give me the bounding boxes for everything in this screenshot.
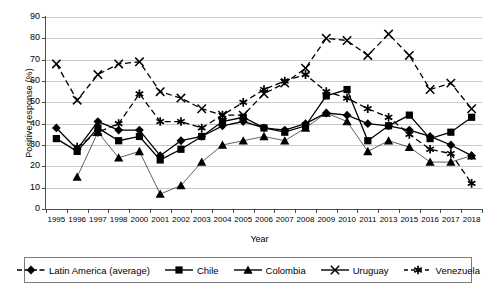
triangle-marker-icon [197, 157, 206, 165]
square-marker-icon [364, 137, 371, 144]
x-tick-label: 2018 [457, 215, 487, 224]
x-tick-mark [357, 209, 358, 213]
x-tick-mark [316, 209, 317, 213]
triangle-marker-icon [384, 136, 393, 144]
y-tick-label: 70 [14, 55, 40, 64]
square-marker-icon [468, 114, 475, 121]
legend-label: Colombia [266, 265, 306, 276]
y-tick-label: 40 [14, 119, 40, 128]
diamond-marker-icon [177, 136, 186, 145]
cross-marker-icon [364, 51, 372, 59]
chart-legend: Latin America (average)ChileColombiaUrug… [24, 257, 472, 283]
x-axis-title-text: Year [228, 234, 268, 244]
y-tick-label: 90 [14, 12, 40, 21]
asterisk-marker-icon [364, 104, 371, 113]
diamond-marker-icon [363, 119, 372, 128]
x-tick-mark [337, 209, 338, 213]
cross-marker-icon [322, 34, 330, 42]
square-marker-icon [198, 133, 205, 140]
x-tick-mark [67, 209, 68, 213]
x-tick-mark [212, 209, 213, 213]
x-tick-mark [378, 209, 379, 213]
square-marker-icon [53, 135, 60, 142]
cross-marker-icon [447, 79, 455, 87]
data-series-layer [46, 17, 482, 209]
legend-label: Venezuela [436, 265, 480, 276]
x-tick-mark [461, 209, 462, 213]
triangle-marker-icon [363, 147, 372, 155]
square-marker-icon [426, 135, 433, 142]
cross-marker-icon [73, 96, 81, 104]
y-tick-label: 30 [14, 140, 40, 149]
square-marker-icon [260, 124, 267, 131]
triangle-marker-icon [342, 117, 351, 125]
series-uruguay [52, 30, 476, 119]
series-line [56, 34, 471, 115]
cross-marker-icon [384, 30, 392, 38]
x-axis-line [45, 209, 483, 210]
square-marker-icon [281, 129, 288, 136]
legend-label: Uruguay [353, 265, 389, 276]
x-tick-mark [88, 209, 89, 213]
diamond-marker-icon [16, 263, 46, 277]
legend-item-latin-america-average[interactable]: Latin America (average) [16, 263, 150, 277]
x-tick-mark [150, 209, 151, 213]
x-tick-mark [420, 209, 421, 213]
x-tick-mark [171, 209, 172, 213]
cross-marker-icon [426, 85, 434, 93]
square-marker-icon [115, 137, 122, 144]
square-marker-icon [175, 266, 182, 273]
triangle-marker-icon [156, 189, 165, 197]
asterisk-marker-icon [385, 113, 392, 122]
x-axis-title: Year [0, 234, 497, 244]
legend-item-chile[interactable]: Chile [164, 263, 219, 277]
chart-container: Positive response (%) 010203040506070809… [0, 0, 497, 289]
legend-item-venezuela[interactable]: Venezuela [403, 263, 480, 277]
y-tick-label: 0 [14, 204, 40, 213]
x-tick-mark [108, 209, 109, 213]
asterisk-marker-icon [403, 263, 433, 277]
legend-label: Latin America (average) [49, 265, 150, 276]
square-marker-icon [343, 86, 350, 93]
square-marker-icon [406, 112, 413, 119]
triangle-marker-icon [73, 172, 82, 180]
legend-item-colombia[interactable]: Colombia [233, 263, 306, 277]
cross-marker-icon [467, 105, 475, 113]
x-tick-mark [191, 209, 192, 213]
cross-marker-icon [156, 87, 164, 95]
legend-item-uruguay[interactable]: Uruguay [320, 263, 389, 277]
plot-area: 0102030405060708090 19951996199719982000… [46, 17, 482, 209]
square-marker-icon [157, 156, 164, 163]
cross-marker-icon [198, 105, 206, 113]
x-tick-mark [295, 209, 296, 213]
triangle-marker-icon [233, 263, 263, 277]
asterisk-marker-icon [198, 124, 205, 133]
x-tick-mark [46, 209, 47, 213]
cross-marker-icon [52, 60, 60, 68]
square-marker-icon [447, 129, 454, 136]
square-marker-icon [136, 133, 143, 140]
x-tick-mark [129, 209, 130, 213]
cross-marker-icon [94, 70, 102, 78]
x-tick-mark [274, 209, 275, 213]
x-tick-mark [254, 209, 255, 213]
cross-marker-icon [405, 51, 413, 59]
diamond-marker-icon [27, 266, 36, 275]
y-tick-label: 50 [14, 97, 40, 106]
x-tick-mark [482, 209, 483, 213]
square-marker-icon [385, 122, 392, 129]
square-marker-icon [177, 146, 184, 153]
y-tick-label: 60 [14, 76, 40, 85]
cross-marker-icon [320, 263, 350, 277]
x-tick-mark [233, 209, 234, 213]
y-tick-label: 10 [14, 183, 40, 192]
square-marker-icon [164, 263, 194, 277]
diamond-marker-icon [446, 141, 455, 150]
cross-marker-icon [177, 94, 185, 102]
legend-label: Chile [197, 265, 219, 276]
x-tick-mark [440, 209, 441, 213]
cross-marker-icon [114, 60, 122, 68]
asterisk-marker-icon [239, 98, 246, 107]
triangle-marker-icon [405, 143, 414, 151]
triangle-marker-icon [135, 147, 144, 155]
